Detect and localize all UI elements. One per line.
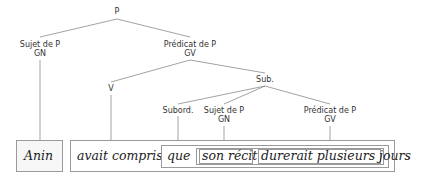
word-durerait-plusieurs-jours: durerait plusieurs jours bbox=[261, 149, 411, 163]
node-category-label: GV bbox=[304, 115, 356, 124]
syntax-tree-diagram: P Sujet de P GN Prédicat de P GV V Sub. … bbox=[0, 0, 427, 179]
node-subject: Sujet de P GN bbox=[20, 40, 60, 58]
node-function-label: Prédicat de P bbox=[304, 106, 356, 115]
node-label: Subord. bbox=[163, 106, 194, 115]
word-son-recit: son récit bbox=[202, 149, 257, 163]
sentence-period: . bbox=[407, 148, 411, 162]
node-label: Sub. bbox=[256, 75, 274, 84]
node-sub: Sub. bbox=[256, 75, 274, 84]
node-label: V bbox=[108, 84, 113, 93]
node-category-label: GV bbox=[164, 49, 216, 58]
node-category-label: GN bbox=[204, 115, 244, 124]
node-root-p: P bbox=[115, 7, 120, 16]
node-verb: V bbox=[108, 84, 113, 93]
node-function-label: Sujet de P bbox=[204, 106, 244, 115]
word-que: que bbox=[167, 149, 190, 163]
node-label: P bbox=[115, 7, 120, 16]
node-function-label: Prédicat de P bbox=[164, 40, 216, 49]
node-function-label: Sujet de P bbox=[20, 40, 60, 49]
node-subord: Subord. bbox=[163, 106, 194, 115]
word-avait-compris: avait compris bbox=[77, 149, 163, 163]
node-category-label: GN bbox=[20, 49, 60, 58]
node-predicate: Prédicat de P GV bbox=[164, 40, 216, 58]
word-anin: Anin bbox=[24, 149, 53, 163]
node-sub-subject: Sujet de P GN bbox=[204, 106, 244, 124]
node-sub-predicate: Prédicat de P GV bbox=[304, 106, 356, 124]
